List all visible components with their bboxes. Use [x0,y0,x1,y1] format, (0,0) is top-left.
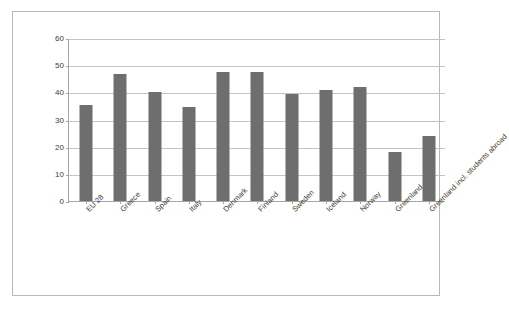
bar-slot [377,39,411,201]
bar-slot [343,39,377,201]
bar[interactable] [114,74,127,201]
bar-slot [412,39,446,201]
bar[interactable] [217,72,230,201]
y-axis-tick-label: 30 [55,117,64,125]
bars-group [69,39,445,201]
bar[interactable] [422,136,435,201]
bar-slot [206,39,240,201]
bar-slot [309,39,343,201]
y-axis-tick-label: 10 [55,171,64,179]
bar-slot [172,39,206,201]
bar-slot [240,39,274,201]
bar-slot [275,39,309,201]
bar[interactable] [148,92,161,201]
plot-area: 0102030405060 [68,39,445,202]
y-axis-tick-label: 50 [55,62,64,70]
bar[interactable] [80,105,93,201]
y-axis-tick-label: 0 [60,198,64,206]
y-axis-tick-label: 60 [55,35,64,43]
bar[interactable] [285,94,298,201]
bar[interactable] [251,72,264,201]
y-axis-tick-label: 40 [55,89,64,97]
y-axis-tick-mark [66,202,69,203]
bar[interactable] [182,107,195,201]
bar-slot [69,39,103,201]
bar[interactable] [320,90,333,201]
bar-slot [138,39,172,201]
chart-outer-frame: 0102030405060 EU 28GreeceSpainItalyDenma… [12,11,440,296]
bar[interactable] [388,152,401,201]
bar[interactable] [354,87,367,201]
bar-slot [103,39,137,201]
y-axis-tick-label: 20 [55,144,64,152]
